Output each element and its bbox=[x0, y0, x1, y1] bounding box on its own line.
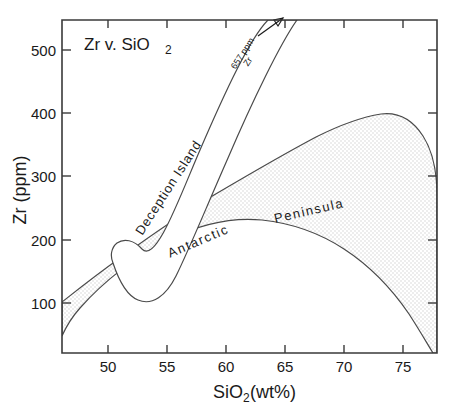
y-tick-label: 300 bbox=[31, 168, 56, 185]
chart-title-main: Zr v. SiO bbox=[84, 35, 150, 54]
antarctic-peninsula-field bbox=[62, 114, 437, 353]
y-axis-title-text: Zr (ppm) bbox=[10, 156, 30, 225]
x-tick-label: 50 bbox=[100, 358, 117, 375]
y-axis-title: Zr (ppm) bbox=[10, 156, 30, 225]
antarctic-peninsula-field-shape bbox=[62, 114, 437, 353]
x-tick-labels: 50 55 60 65 70 75 bbox=[100, 358, 412, 375]
x-axis-title: SiO 2 (wt%) bbox=[213, 382, 296, 405]
zr-vs-sio2-chart-figure: 50 55 60 65 70 75 500 400 300 200 100 Zr… bbox=[0, 0, 457, 407]
chart-title-sub: 2 bbox=[165, 43, 172, 57]
x-tick-label: 70 bbox=[336, 358, 353, 375]
x-axis-title-unit: (wt%) bbox=[250, 382, 296, 402]
x-axis-title-main: SiO bbox=[213, 382, 243, 402]
x-tick-label: 65 bbox=[277, 358, 294, 375]
x-axis-title-sub: 2 bbox=[243, 391, 250, 405]
x-tick-label: 60 bbox=[218, 358, 235, 375]
x-tick-label: 55 bbox=[159, 358, 176, 375]
y-tick-label: 100 bbox=[31, 295, 56, 312]
deception-island-band bbox=[111, 20, 297, 302]
y-tick-labels: 500 400 300 200 100 bbox=[31, 42, 56, 312]
y-tick-label: 500 bbox=[31, 42, 56, 59]
y-tick-label: 200 bbox=[31, 232, 56, 249]
chart-title: Zr v. SiO 2 bbox=[84, 35, 172, 57]
y-tick-label: 400 bbox=[31, 105, 56, 122]
x-tick-label: 75 bbox=[395, 358, 412, 375]
deception-island-band-shape bbox=[111, 20, 297, 302]
chart-canvas: 50 55 60 65 70 75 500 400 300 200 100 Zr… bbox=[0, 0, 457, 407]
